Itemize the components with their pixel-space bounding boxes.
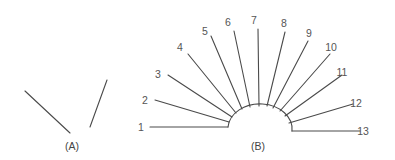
ray-2 <box>155 100 229 122</box>
panel-a <box>25 80 107 133</box>
panel-a-line-2 <box>90 80 107 127</box>
ray-7 <box>258 29 259 106</box>
ray-label-7: 7 <box>251 14 257 26</box>
figure-canvas: 12345678910111213 (A) (B) <box>0 0 395 160</box>
ray-label-1: 1 <box>138 121 144 133</box>
ray-8 <box>267 32 285 106</box>
ray-label-11: 11 <box>337 66 348 78</box>
ray-label-6: 6 <box>225 16 231 28</box>
ray-label-5: 5 <box>202 25 208 37</box>
panel-b: 12345678910111213 <box>138 14 369 137</box>
ray-label-8: 8 <box>281 17 287 29</box>
ray-label-10: 10 <box>325 41 337 53</box>
panel-a-line-1 <box>25 91 70 133</box>
panel-a-caption: (A) <box>65 140 79 152</box>
ray-label-12: 12 <box>350 97 362 109</box>
ray-label-4: 4 <box>177 41 183 53</box>
ray-label-2: 2 <box>142 94 148 106</box>
ray-label-9: 9 <box>306 27 312 39</box>
panel-b-caption: (B) <box>251 140 265 152</box>
ray-label-13: 13 <box>357 125 369 137</box>
ray-label-3: 3 <box>155 68 161 80</box>
ray-9 <box>273 41 308 108</box>
ray-10 <box>280 54 330 111</box>
